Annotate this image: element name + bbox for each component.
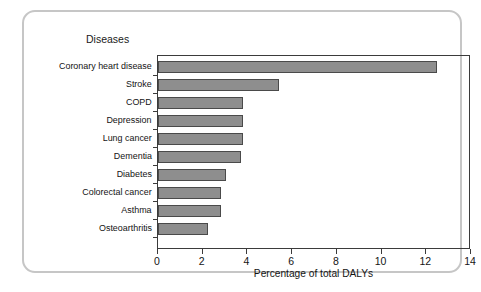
x-axis-tick-label: 10 xyxy=(375,255,387,267)
y-axis-label: Colorectal cancer xyxy=(83,187,152,197)
x-axis-tick-label: 12 xyxy=(419,255,431,267)
x-axis-tick-label: 8 xyxy=(333,255,339,267)
y-axis-label: Depression xyxy=(107,115,152,125)
bar-row xyxy=(158,130,469,148)
y-axis-tick xyxy=(153,111,158,112)
bar-row xyxy=(158,76,469,94)
bar-row xyxy=(158,112,469,130)
bar-osteoarthritis xyxy=(158,223,208,235)
x-axis-tick xyxy=(336,249,337,254)
bar-depression xyxy=(158,115,243,127)
x-axis-tick-label: 4 xyxy=(244,255,250,267)
x-axis-tick xyxy=(425,249,426,254)
y-axis-tick xyxy=(153,201,158,202)
y-axis-label: Osteoarthritis xyxy=(99,223,152,233)
x-axis-tick xyxy=(470,249,471,254)
bar-stroke xyxy=(158,79,279,91)
y-axis-tick xyxy=(153,93,158,94)
bar-dementia xyxy=(158,151,241,163)
bar-coronary-heart-disease xyxy=(158,61,437,73)
y-axis-label: COPD xyxy=(126,97,152,107)
y-axis-label: Coronary heart disease xyxy=(59,61,152,71)
y-axis-tick xyxy=(153,237,158,238)
y-axis-tick xyxy=(153,129,158,130)
series-axis-label: Diseases xyxy=(86,33,129,45)
y-axis-label: Asthma xyxy=(122,205,152,215)
bar-row xyxy=(158,184,469,202)
bar-row xyxy=(158,58,469,76)
x-axis-tick xyxy=(291,249,292,254)
x-axis-tick-label: 6 xyxy=(288,255,294,267)
bar-row xyxy=(158,220,469,238)
bar-row xyxy=(158,94,469,112)
bar-lung-cancer xyxy=(158,133,243,145)
plot-area xyxy=(157,55,470,249)
y-axis-category-labels: Coronary heart diseaseStrokeCOPDDepressi… xyxy=(44,55,152,249)
bar-colorectal-cancer xyxy=(158,187,221,199)
x-axis-tick-label: 2 xyxy=(199,255,205,267)
bar-row xyxy=(158,202,469,220)
bar-row xyxy=(158,148,469,166)
y-axis-tick xyxy=(153,165,158,166)
x-axis-tick xyxy=(202,249,203,254)
y-axis-tick xyxy=(153,183,158,184)
y-axis-tick xyxy=(153,75,158,76)
x-axis-tick xyxy=(381,249,382,254)
x-axis-title: Percentage of total DALYs xyxy=(157,268,470,279)
x-axis-tick xyxy=(157,249,158,254)
y-axis-label: Lung cancer xyxy=(103,133,152,143)
y-axis-label: Stroke xyxy=(126,79,152,89)
y-axis-tick xyxy=(153,219,158,220)
x-axis-tick-label: 0 xyxy=(154,255,160,267)
y-axis-label: Diabetes xyxy=(117,169,152,179)
x-axis-tick-label: 14 xyxy=(464,255,476,267)
y-axis-tick xyxy=(153,147,158,148)
bar-copd xyxy=(158,97,243,109)
bar-asthma xyxy=(158,205,221,217)
chart-card: Diseases Coronary heart diseaseStrokeCOP… xyxy=(22,10,462,273)
x-axis-tick xyxy=(246,249,247,254)
bar-row xyxy=(158,166,469,184)
bar-diabetes xyxy=(158,169,226,181)
y-axis-label: Dementia xyxy=(114,151,152,161)
